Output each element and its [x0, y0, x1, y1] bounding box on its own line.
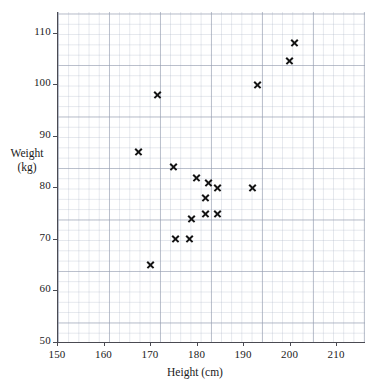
y-tick-mark: [53, 342, 57, 343]
y-tick-label: 70: [17, 231, 51, 243]
y-tick-label: 80: [17, 179, 51, 191]
y-tick-mark: [53, 84, 57, 85]
x-tick-label: 170: [130, 348, 170, 360]
x-tick-mark: [150, 342, 151, 346]
y-tick-label: 110: [17, 25, 51, 37]
scatter-plot-figure: 150160170180190200210 5060708090100110 W…: [0, 0, 390, 386]
y-tick-mark: [53, 290, 57, 291]
y-tick-mark: [53, 33, 57, 34]
x-tick-label: 160: [84, 348, 124, 360]
x-tick-mark: [104, 342, 105, 346]
y-axis-title: Weight (kg): [0, 146, 54, 174]
y-axis-title-line2: (kg): [0, 160, 54, 174]
plot-area: [57, 12, 365, 342]
y-tick-mark: [53, 187, 57, 188]
x-tick-mark: [243, 342, 244, 346]
x-tick-label: 180: [177, 348, 217, 360]
x-tick-label: 210: [316, 348, 356, 360]
x-axis-title: Height (cm): [0, 366, 390, 378]
y-axis-title-line1: Weight: [0, 146, 54, 160]
y-tick-label: 50: [17, 334, 51, 346]
x-tick-label: 190: [223, 348, 263, 360]
y-tick-mark: [53, 239, 57, 240]
y-tick-label: 100: [17, 76, 51, 88]
x-tick-label: 200: [270, 348, 310, 360]
y-tick-label: 90: [17, 128, 51, 140]
x-tick-label: 150: [37, 348, 77, 360]
x-tick-mark: [336, 342, 337, 346]
y-tick-mark: [53, 136, 57, 137]
x-tick-mark: [57, 342, 58, 346]
x-tick-mark: [290, 342, 291, 346]
x-tick-mark: [197, 342, 198, 346]
y-tick-label: 60: [17, 282, 51, 294]
